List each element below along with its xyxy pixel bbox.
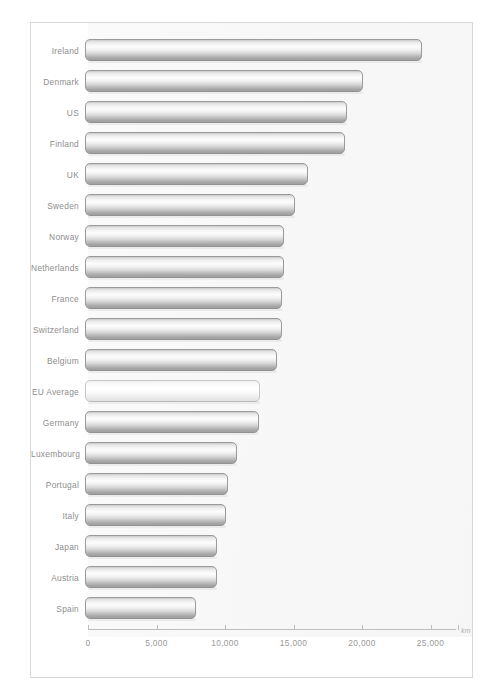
- x-axis-tick: [225, 625, 226, 630]
- bar-row: France: [31, 283, 472, 314]
- bar-category-label: Germany: [31, 418, 85, 428]
- x-axis-tick-label: 10,000: [211, 638, 238, 648]
- bar-category-label: Japan: [31, 542, 85, 552]
- bar-row: Denmark: [31, 66, 472, 97]
- bar-category-label: EU Average: [31, 387, 85, 397]
- x-axis-tick-label: 15,000: [280, 638, 307, 648]
- bar-track: [85, 128, 472, 159]
- bar-row: Spain: [31, 593, 472, 624]
- bar-track: [85, 190, 472, 221]
- bar[interactable]: [85, 597, 196, 619]
- bar-row: Portugal: [31, 469, 472, 500]
- bar-row: UK: [31, 159, 472, 190]
- x-axis-line: [88, 629, 456, 630]
- bar-row: Sweden: [31, 190, 472, 221]
- bar-category-label: France: [31, 294, 85, 304]
- bar-row: Norway: [31, 221, 472, 252]
- x-axis-tick: [157, 625, 158, 630]
- bar-track: [85, 159, 472, 190]
- x-axis-tick-label: 20,000: [348, 638, 375, 648]
- bar-track: [85, 66, 472, 97]
- x-axis-tick: [88, 625, 89, 630]
- x-axis-tick: [431, 625, 432, 630]
- bar[interactable]: [85, 132, 345, 154]
- bar-category-label: Switzerland: [31, 325, 85, 335]
- bar-track: [85, 376, 472, 407]
- bar[interactable]: [85, 70, 363, 92]
- bar-row: Luxembourg: [31, 438, 472, 469]
- bar[interactable]: [85, 39, 422, 61]
- bar[interactable]: [85, 535, 217, 557]
- bar[interactable]: [85, 101, 347, 123]
- bar-category-label: US: [31, 108, 85, 118]
- bar-row: Ireland: [31, 35, 472, 66]
- bar[interactable]: [85, 225, 284, 247]
- chart-frame: IrelandDenmarkUSFinlandUKSwedenNorwayNet…: [30, 22, 473, 678]
- x-axis-tick-label: 5,000: [145, 638, 167, 648]
- bar-category-label: Belgium: [31, 356, 85, 366]
- bar-row: US: [31, 97, 472, 128]
- bar[interactable]: [85, 194, 295, 216]
- bar-category-label: UK: [31, 170, 85, 180]
- bar-highlight[interactable]: [85, 380, 260, 402]
- bar-track: [85, 593, 472, 624]
- x-axis-tick: [294, 625, 295, 630]
- bar[interactable]: [85, 349, 277, 371]
- bar-track: [85, 562, 472, 593]
- bar-category-label: Ireland: [31, 46, 85, 56]
- bar-track: [85, 469, 472, 500]
- bar-category-label: Italy: [31, 511, 85, 521]
- x-axis-tick-label: 0: [86, 638, 91, 648]
- bar-track: [85, 345, 472, 376]
- bar-track: [85, 252, 472, 283]
- bar-row: Germany: [31, 407, 472, 438]
- bar-track: [85, 314, 472, 345]
- bar-rows: IrelandDenmarkUSFinlandUKSwedenNorwayNet…: [31, 23, 472, 677]
- bar-category-label: Netherlands: [31, 263, 85, 273]
- bar[interactable]: [85, 566, 217, 588]
- bar-category-label: Denmark: [31, 77, 85, 87]
- bar[interactable]: [85, 163, 308, 185]
- bar-track: [85, 35, 472, 66]
- bar-track: [85, 531, 472, 562]
- bar-category-label: Finland: [31, 139, 85, 149]
- bar-category-label: Sweden: [31, 201, 85, 211]
- bar-track: [85, 221, 472, 252]
- bar[interactable]: [85, 287, 282, 309]
- bar-track: [85, 500, 472, 531]
- bar-row: Switzerland: [31, 314, 472, 345]
- x-axis: km 05,00010,00015,00020,00025,000: [31, 629, 472, 677]
- bar-category-label: Luxembourg: [31, 449, 85, 459]
- bar[interactable]: [85, 473, 228, 495]
- x-axis-unit-label: km: [461, 627, 471, 634]
- bar-row: Austria: [31, 562, 472, 593]
- bar-category-label: Norway: [31, 232, 85, 242]
- bar[interactable]: [85, 442, 237, 464]
- bar-row: Japan: [31, 531, 472, 562]
- bar[interactable]: [85, 256, 284, 278]
- bar-track: [85, 97, 472, 128]
- x-axis-tick-label: 25,000: [417, 638, 444, 648]
- bar-category-label: Spain: [31, 604, 85, 614]
- bar[interactable]: [85, 411, 259, 433]
- bar-row: Belgium: [31, 345, 472, 376]
- bar-category-label: Austria: [31, 573, 85, 583]
- bar-track: [85, 407, 472, 438]
- bar-track: [85, 283, 472, 314]
- x-axis-endcap: [458, 625, 459, 630]
- bar-row: Italy: [31, 500, 472, 531]
- bar[interactable]: [85, 504, 226, 526]
- bar-category-label: Portugal: [31, 480, 85, 490]
- x-axis-tick: [362, 625, 363, 630]
- bar-row: Finland: [31, 128, 472, 159]
- bar-row: Netherlands: [31, 252, 472, 283]
- bar-row: EU Average: [31, 376, 472, 407]
- bar-track: [85, 438, 472, 469]
- bar[interactable]: [85, 318, 282, 340]
